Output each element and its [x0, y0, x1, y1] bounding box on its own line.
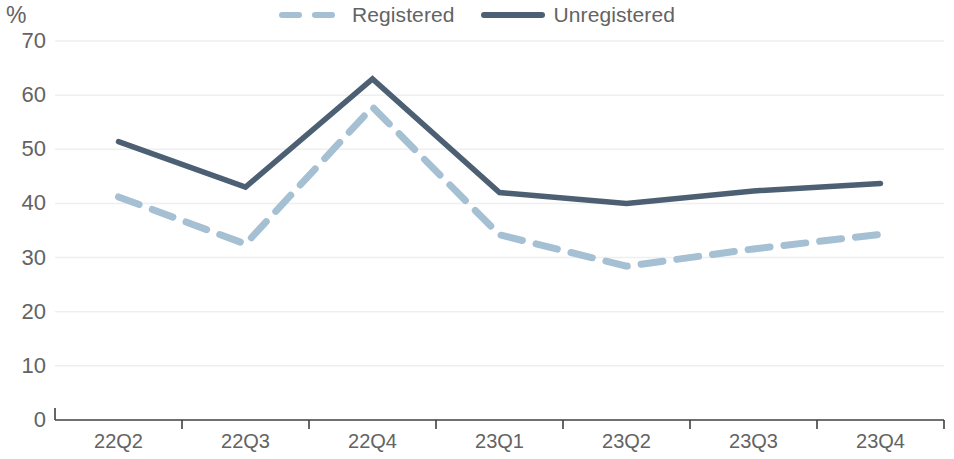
x-axis-tick-23Q3: 23Q3 [729, 430, 778, 453]
x-axis-tick-22Q2: 22Q2 [94, 430, 143, 453]
plot-area [0, 0, 954, 459]
line-chart: Registered Unregistered % 70605040302010… [0, 0, 954, 459]
gridlines [55, 41, 944, 366]
plot-svg [0, 0, 954, 459]
axis-lines [55, 408, 944, 429]
x-axis-tick-22Q3: 22Q3 [221, 430, 270, 453]
x-axis-tick-23Q2: 23Q2 [602, 430, 651, 453]
x-axis-tick-23Q1: 23Q1 [475, 430, 524, 453]
series-lines [119, 79, 881, 266]
x-axis-tick-22Q4: 22Q4 [348, 430, 397, 453]
x-axis-tick-23Q4: 23Q4 [856, 430, 905, 453]
